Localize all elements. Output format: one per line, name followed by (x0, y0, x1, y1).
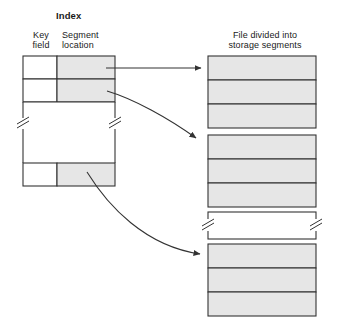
segment-box-f (208, 183, 316, 207)
segment-break-box (208, 212, 316, 239)
index-row-c-key-cell (23, 56, 57, 79)
index-row-z (23, 163, 115, 186)
segment-break-zigzag-left (202, 219, 215, 231)
segment-break-zigzag-right (310, 219, 323, 231)
segment-group-abc (208, 56, 316, 128)
index-row-z-key-cell (23, 163, 57, 186)
index-row-z-location-cell (57, 163, 115, 186)
index-row-f-key-cell (23, 79, 57, 102)
segment-box-x (208, 244, 316, 268)
index-row-f (23, 79, 115, 102)
indexed-file-diagram: Index Key field Segment location File di… (0, 0, 340, 320)
segment-box-z (208, 292, 316, 316)
segment-group-xyz (208, 244, 316, 316)
segment-box-c (208, 104, 316, 128)
index-break-zigzag-left (17, 117, 30, 129)
diagram-vector-layer (0, 0, 340, 320)
index-table (17, 56, 122, 186)
segment-box-y (208, 268, 316, 292)
segment-box-d (208, 135, 316, 159)
segment-group-break (202, 212, 323, 239)
segment-group-def (208, 135, 316, 207)
index-row-c (23, 56, 115, 79)
segment-box-a (208, 56, 316, 80)
index-break-region (17, 102, 122, 163)
index-row-f-location-cell (57, 79, 115, 102)
segment-box-e (208, 159, 316, 183)
pointer-f-to-d (107, 91, 196, 138)
index-break-zigzag-right (109, 117, 122, 129)
index-break-fill (23, 102, 115, 163)
segment-box-b (208, 80, 316, 104)
